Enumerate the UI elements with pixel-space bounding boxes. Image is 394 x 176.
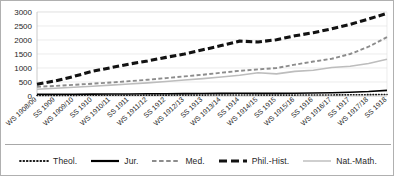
legend-label: Nat.-Math. <box>336 156 377 166</box>
legend-item-theol[interactable]: Theol. <box>19 156 77 166</box>
chart-container: 050010001500200025003000WS 1908/09SS 190… <box>0 0 394 176</box>
y-axis-tick-label: 1000 <box>14 64 32 73</box>
legend-item-nat-math[interactable]: Nat.-Math. <box>302 156 377 166</box>
thick-dashed-line-swatch <box>218 156 248 166</box>
legend-label: Phil.-Hist. <box>252 156 289 166</box>
light-solid-line-swatch <box>302 156 332 166</box>
legend-item-med[interactable]: Med. <box>151 156 204 166</box>
series-line-med <box>37 37 387 87</box>
series-line-jur <box>37 90 387 94</box>
y-axis-tick-label: 2000 <box>14 36 32 45</box>
y-axis-tick-label: 1500 <box>14 50 32 59</box>
y-axis-tick-label: 500 <box>19 78 33 87</box>
y-axis-tick-label: 3000 <box>14 8 32 17</box>
dotted-line-swatch <box>19 156 49 166</box>
plot-area: 050010001500200025003000WS 1908/09SS 190… <box>1 1 394 144</box>
chart-legend: Theol.Jur.Med.Phil.-Hist.Nat.-Math. <box>1 145 394 176</box>
legend-item-jur[interactable]: Jur. <box>90 156 138 166</box>
solid-line-swatch <box>90 156 120 166</box>
dashed-line-swatch <box>151 156 181 166</box>
x-axis-tick-label: WS 1908/09 <box>5 96 38 127</box>
line-chart-svg: 050010001500200025003000WS 1908/09SS 190… <box>1 1 394 144</box>
legend-label: Med. <box>185 156 204 166</box>
y-axis-tick-label: 2500 <box>14 22 32 31</box>
legend-item-phil-hist[interactable]: Phil.-Hist. <box>218 156 289 166</box>
legend-label: Theol. <box>53 156 77 166</box>
legend-label: Jur. <box>124 156 138 166</box>
